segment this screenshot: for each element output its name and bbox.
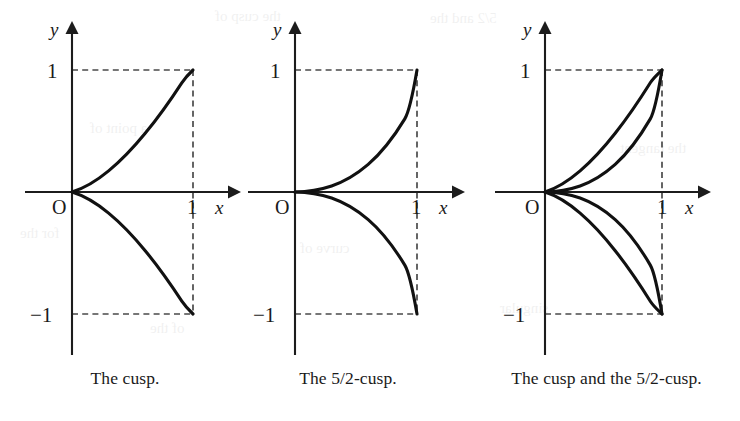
panel-cusp: y x O 1 1 −1 The cusp. xyxy=(0,0,250,421)
curve-five-halves-lower xyxy=(295,192,417,314)
y-tick-minus-1: −1 xyxy=(253,303,275,327)
cusp-figure: the cusp of 5/2 and the a point of curve… xyxy=(0,0,740,421)
x-axis-label: x xyxy=(438,197,448,218)
y-tick-minus-1: −1 xyxy=(503,303,525,327)
x-tick-1: 1 xyxy=(187,195,198,219)
x-tick-1: 1 xyxy=(411,195,422,219)
y-tick-1: 1 xyxy=(270,59,281,83)
five-halves-cusp-plot: y x O 1 1 −1 xyxy=(223,0,473,421)
curve-five-halves-upper xyxy=(295,70,417,192)
x-axis-label: x xyxy=(684,197,694,218)
origin-label: O xyxy=(52,196,66,218)
y-axis-label: y xyxy=(48,19,59,40)
panel-caption: The 5/2-cusp. xyxy=(223,368,473,389)
y-axis-label: y xyxy=(271,19,282,40)
curve-cusp-lower xyxy=(72,192,193,314)
origin-label: O xyxy=(275,196,289,218)
panel-caption: The cusp. xyxy=(0,368,250,389)
y-axis-arrow-icon xyxy=(539,21,552,34)
panel-five-halves-cusp: y x O 1 1 −1 The 5/2-cusp. xyxy=(223,0,473,421)
y-tick-1: 1 xyxy=(520,59,531,83)
both-cusps-plot: y x O 1 1 −1 xyxy=(473,0,740,421)
curve-five-halves-upper xyxy=(545,70,662,192)
origin-label: O xyxy=(525,196,539,218)
x-axis-arrow-icon xyxy=(452,186,465,199)
y-axis-label: y xyxy=(521,19,532,40)
cusp-plot: y x O 1 1 −1 xyxy=(0,0,250,421)
panel-caption: The cusp and the 5/2-cusp. xyxy=(473,368,740,389)
y-tick-1: 1 xyxy=(47,59,58,83)
y-axis-arrow-icon xyxy=(66,21,79,34)
panel-both-cusps: y x O 1 1 −1 The cusp and the 5/2-cusp. xyxy=(473,0,740,421)
x-axis-arrow-icon xyxy=(698,186,711,199)
y-tick-minus-1: −1 xyxy=(30,303,52,327)
x-tick-1: 1 xyxy=(657,195,668,219)
curve-cusp-upper xyxy=(72,70,193,192)
curve-five-halves-lower xyxy=(545,192,662,314)
y-axis-arrow-icon xyxy=(289,21,302,34)
